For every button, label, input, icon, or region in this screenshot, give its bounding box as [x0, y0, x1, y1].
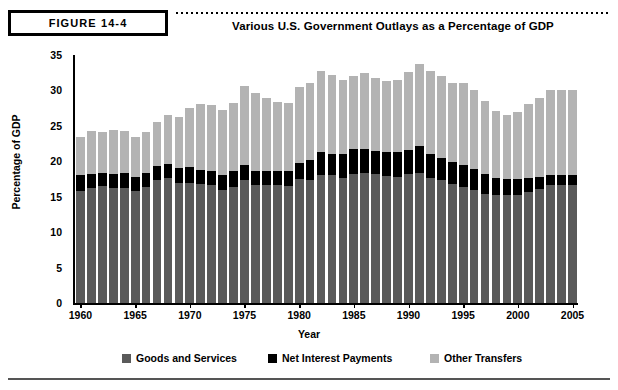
bar-segment-1976-other-transfers [251, 93, 260, 171]
bar-1968 [164, 115, 173, 303]
bar-segment-1971-net-interest-payments [196, 170, 205, 184]
plot-wrapper: Percentage of GDP 05101520253035 1960196… [0, 50, 618, 320]
bar-segment-1988-other-transfers [382, 81, 391, 152]
bar-segment-1972-other-transfers [207, 105, 216, 172]
bar-segment-1997-goods-and-services [481, 194, 490, 303]
bar-segment-1970-other-transfers [185, 108, 194, 167]
bar-segment-1993-goods-and-services [437, 180, 446, 303]
bar-2001 [524, 104, 533, 303]
bar-segment-1972-goods-and-services [207, 185, 216, 303]
bar-segment-1964-goods-and-services [120, 188, 129, 303]
bar-segment-1992-net-interest-payments [426, 154, 435, 178]
bar-1963 [109, 130, 118, 303]
bar-segment-1965-other-transfers [131, 137, 140, 177]
y-tick-15: 15 [50, 191, 62, 203]
bar-segment-1974-other-transfers [229, 103, 238, 171]
bar-segment-1971-other-transfers [196, 104, 205, 170]
y-tick-35: 35 [50, 49, 62, 61]
bar-segment-1984-net-interest-payments [339, 154, 348, 179]
bar-segment-1978-other-transfers [273, 102, 282, 171]
bar-segment-1962-net-interest-payments [98, 173, 107, 186]
bar-segment-1960-other-transfers [76, 137, 85, 176]
bar-1999 [503, 115, 512, 303]
bar-segment-1990-net-interest-payments [404, 150, 413, 174]
x-axis-ticks [75, 303, 578, 308]
bar-segment-1973-other-transfers [218, 110, 227, 175]
bar-1967 [153, 122, 162, 303]
bar-segment-1994-net-interest-payments [448, 162, 457, 184]
y-tick-30: 30 [50, 84, 62, 96]
bar-1984 [339, 80, 348, 303]
bar-1971 [196, 104, 205, 303]
x-tick-1980: 1980 [287, 309, 310, 321]
bar-segment-2003-net-interest-payments [546, 175, 555, 186]
bar-segment-1980-net-interest-payments [295, 163, 304, 179]
bar-1977 [262, 98, 271, 303]
x-tick-mark-1970 [190, 303, 191, 308]
bar-segment-1967-goods-and-services [153, 180, 162, 303]
x-tick-mark-1985 [354, 303, 355, 308]
x-tick-mark-1975 [244, 303, 245, 308]
bar-segment-1998-goods-and-services [492, 195, 501, 303]
bar-segment-2002-net-interest-payments [535, 177, 544, 189]
y-tick-5: 5 [56, 262, 62, 274]
bar-segment-1982-net-interest-payments [317, 152, 326, 175]
bar-segment-1974-net-interest-payments [229, 171, 238, 187]
bar-segment-1983-goods-and-services [328, 175, 337, 303]
x-axis-tick-labels: 1960196519701975198019851990199520002005 [0, 309, 618, 325]
bar-segment-1961-goods-and-services [87, 188, 96, 303]
bar-segment-1994-goods-and-services [448, 184, 457, 303]
bar-segment-1977-other-transfers [262, 98, 271, 172]
bar-segment-1980-goods-and-services [295, 179, 304, 303]
bar-1989 [393, 80, 402, 303]
x-tick-1990: 1990 [397, 309, 420, 321]
bar-segment-2004-goods-and-services [557, 185, 566, 303]
figure-root: FIGURE 14-4 Various U.S. Government Outl… [0, 0, 618, 390]
bar-segment-1989-goods-and-services [393, 177, 402, 303]
bar-segment-1988-goods-and-services [382, 176, 391, 303]
x-axis-title: Year [0, 328, 618, 340]
x-tick-mark-1995 [463, 303, 464, 308]
bar-segment-1986-goods-and-services [360, 173, 369, 303]
bar-segment-1967-net-interest-payments [153, 166, 162, 179]
bar-segment-2001-goods-and-services [524, 192, 533, 303]
bar-segment-1978-goods-and-services [273, 185, 282, 303]
bar-segment-1984-other-transfers [339, 80, 348, 154]
bar-1980 [295, 87, 304, 303]
legend-swatch-interest [268, 354, 277, 363]
bar-segment-1969-other-transfers [175, 117, 184, 168]
bar-segment-1996-net-interest-payments [470, 169, 479, 190]
bar-segment-1999-other-transfers [503, 115, 512, 179]
bar-2000 [513, 112, 522, 303]
bar-1966 [142, 132, 151, 303]
bar-segment-1960-net-interest-payments [76, 175, 85, 191]
bar-segment-1996-other-transfers [470, 90, 479, 169]
bar-segment-1980-other-transfers [295, 87, 304, 164]
bars-plot-area [75, 55, 578, 303]
bar-1993 [437, 76, 446, 303]
bar-segment-1963-other-transfers [109, 130, 118, 174]
bar-1985 [349, 76, 358, 303]
bar-segment-1976-goods-and-services [251, 185, 260, 303]
x-tick-mark-1990 [409, 303, 410, 308]
bar-1970 [185, 108, 194, 303]
bar-segment-1993-net-interest-payments [437, 158, 446, 181]
bar-segment-1982-other-transfers [317, 71, 326, 152]
bar-segment-2003-other-transfers [546, 90, 555, 174]
bar-segment-1966-goods-and-services [142, 187, 151, 303]
bar-1962 [98, 132, 107, 303]
bar-segment-1965-net-interest-payments [131, 177, 140, 191]
figure-number-box: FIGURE 14-4 [8, 10, 168, 36]
bar-segment-2001-other-transfers [524, 104, 533, 178]
bar-segment-1982-goods-and-services [317, 175, 326, 303]
legend-label-2: Other Transfers [444, 352, 522, 364]
bar-1960 [76, 137, 85, 304]
bar-1975 [240, 86, 249, 303]
bar-segment-1977-goods-and-services [262, 185, 271, 303]
legend-item-goods-and-services: Goods and Services [122, 352, 237, 364]
bar-segment-1999-net-interest-payments [503, 179, 512, 195]
x-tick-mark-1960 [80, 303, 81, 308]
bar-segment-1968-other-transfers [164, 115, 173, 164]
x-tick-2000: 2000 [506, 309, 529, 321]
y-tick-0: 0 [56, 297, 62, 309]
